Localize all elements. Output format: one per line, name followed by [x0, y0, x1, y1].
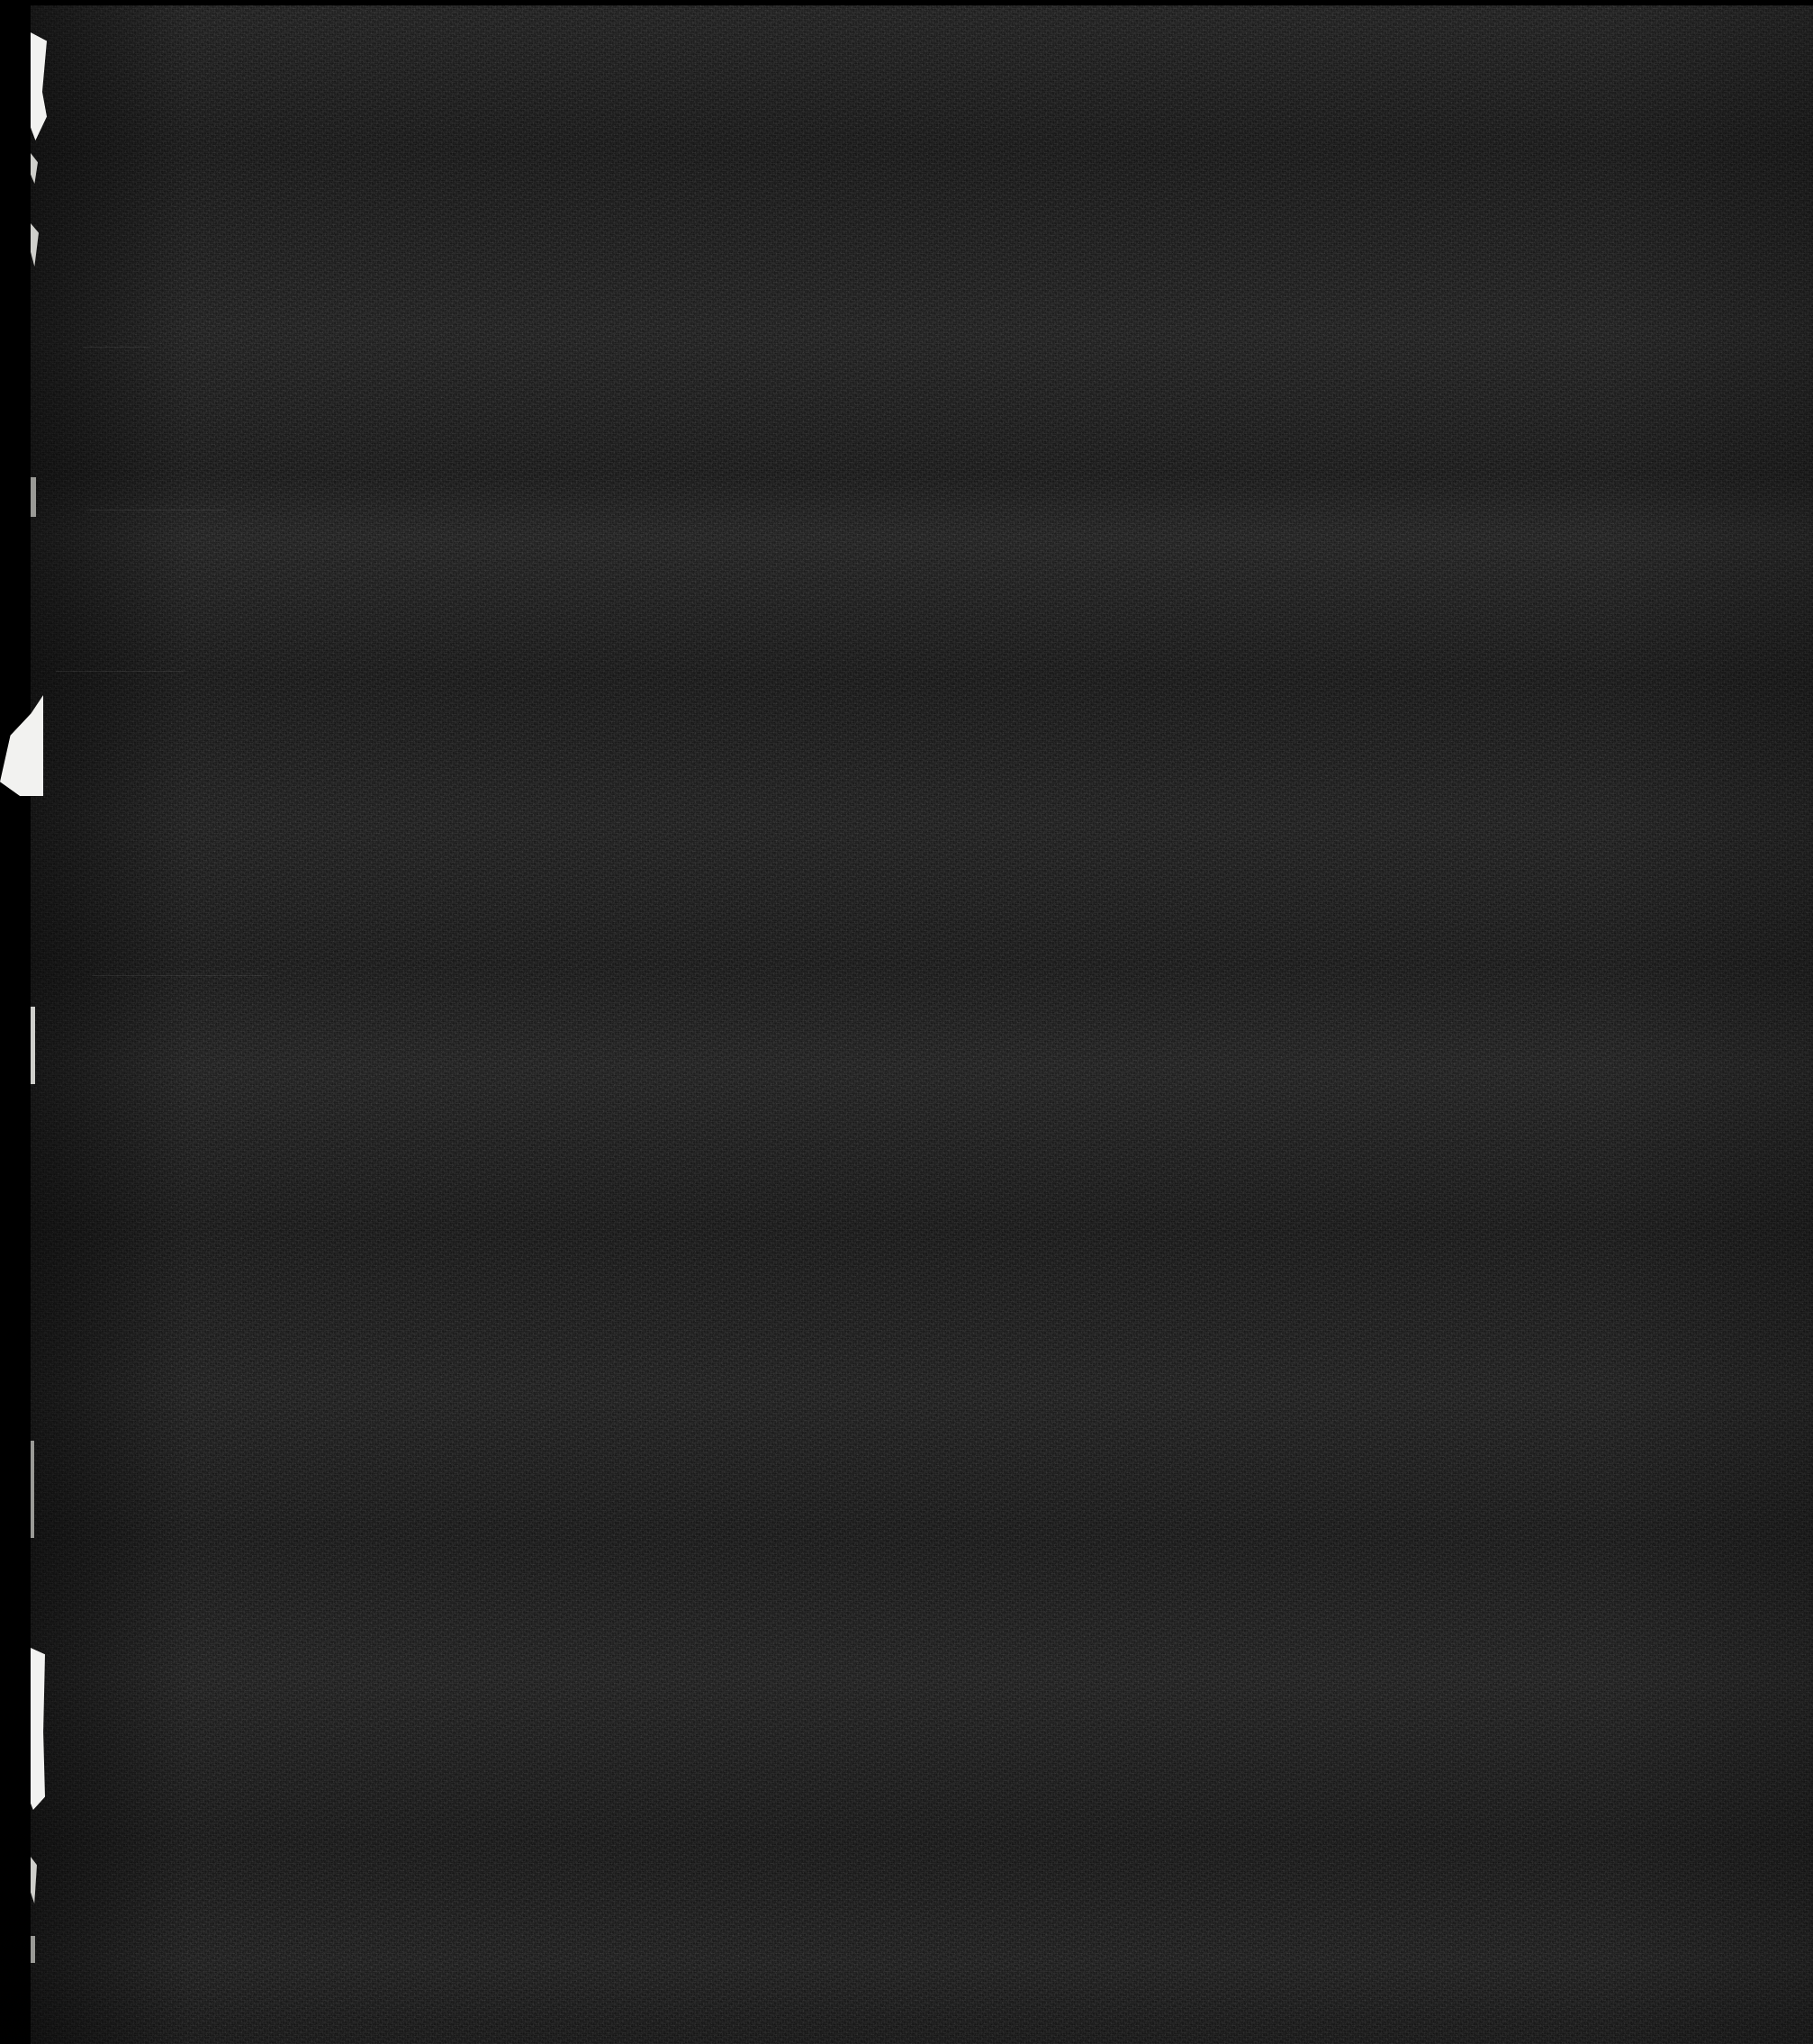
- scanned-page-canvas: [0, 0, 1813, 2044]
- paper-grain-highlights: [31, 5, 1813, 2044]
- top-scanner-margin: [0, 0, 1813, 5]
- document-page: [31, 5, 1813, 2044]
- left-scanner-margin: [0, 0, 31, 2044]
